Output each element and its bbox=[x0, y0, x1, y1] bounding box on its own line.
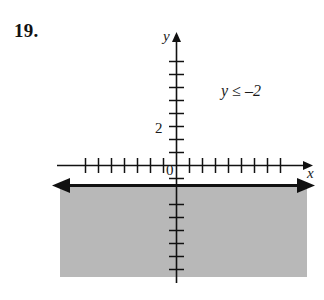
inequality-graph-figure: 19. bbox=[0, 0, 324, 300]
coordinate-plane-svg bbox=[0, 0, 324, 300]
origin-label: 0 bbox=[166, 162, 174, 179]
y-axis-label: y bbox=[163, 28, 170, 45]
x-axis-label: x bbox=[307, 165, 314, 182]
inequality-label: y ≤ –2 bbox=[221, 82, 261, 100]
y-axis-arrowhead-icon bbox=[172, 32, 181, 42]
problem-number: 19. bbox=[14, 20, 39, 42]
y-tick-label-2: 2 bbox=[155, 120, 163, 137]
